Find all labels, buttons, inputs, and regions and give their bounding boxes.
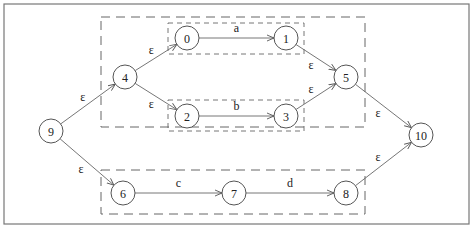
- edge-3-to-5: ε: [296, 82, 336, 110]
- edge-label: ε: [375, 150, 380, 164]
- state-label: 7: [231, 187, 237, 201]
- edge-label: ε: [80, 90, 85, 104]
- state-label: 10: [415, 129, 427, 143]
- state-node-5: 5: [334, 65, 358, 89]
- state-node-3: 3: [274, 104, 298, 128]
- edge-0-to-1: a: [199, 21, 274, 38]
- edge-8-to-10: ε: [355, 142, 411, 185]
- edge-4-to-2: ε: [135, 83, 177, 111]
- edge-9-to-6: ε: [60, 139, 114, 185]
- state-label: 3: [283, 110, 289, 124]
- state-label: 2: [184, 110, 190, 124]
- edge-label: d: [287, 176, 293, 190]
- edge-label: ε: [309, 82, 314, 96]
- edge-label: ε: [309, 58, 314, 72]
- edge-1-to-5: ε: [296, 45, 336, 73]
- state-node-9: 9: [39, 119, 63, 143]
- edge-2-to-3: b: [199, 99, 274, 116]
- edge-4-to-0: ε: [135, 43, 177, 71]
- edge-5-to-10: ε: [355, 84, 411, 127]
- state-label: 4: [122, 71, 128, 85]
- state-node-0: 0: [175, 26, 199, 50]
- state-label: 5: [343, 71, 349, 85]
- state-label: 1: [283, 32, 289, 46]
- state-node-4: 4: [113, 65, 137, 89]
- edge-label: c: [176, 176, 181, 190]
- state-label: 0: [184, 32, 190, 46]
- edge-label: ε: [149, 43, 154, 57]
- edge-label: a: [234, 21, 240, 35]
- state-node-2: 2: [175, 104, 199, 128]
- edge-label: b: [234, 99, 240, 113]
- state-label: 6: [120, 187, 126, 201]
- nfa-diagram: εεεεabεεεcdε 940123567810: [0, 0, 473, 230]
- edge-6-to-7: c: [135, 176, 222, 193]
- state-node-10: 10: [409, 123, 433, 147]
- state-node-1: 1: [274, 26, 298, 50]
- edge-7-to-8: d: [246, 176, 334, 193]
- edge-9-to-4: ε: [61, 84, 116, 124]
- state-node-7: 7: [222, 181, 246, 205]
- edge-label: ε: [149, 97, 154, 111]
- state-label: 8: [343, 187, 349, 201]
- state-node-6: 6: [111, 181, 135, 205]
- state-label: 9: [48, 125, 54, 139]
- edge-label: ε: [79, 162, 84, 176]
- edge-label: ε: [375, 106, 380, 120]
- state-node-8: 8: [334, 181, 358, 205]
